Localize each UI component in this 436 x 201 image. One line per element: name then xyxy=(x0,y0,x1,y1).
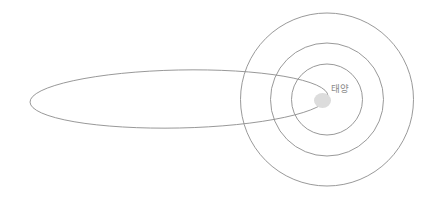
sun-body-icon xyxy=(314,93,331,108)
comet-elliptical-orbit xyxy=(29,67,328,131)
orbit-diagram-canvas: 태양 xyxy=(0,0,436,201)
sun-label: 태양 xyxy=(331,83,349,94)
orbit-diagram: 태양 xyxy=(0,0,436,201)
